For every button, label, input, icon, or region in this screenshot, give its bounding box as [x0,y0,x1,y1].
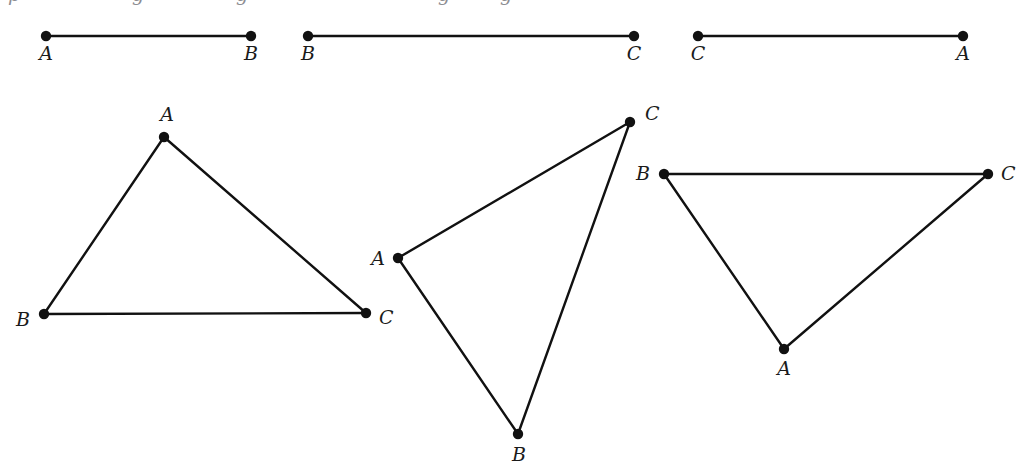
segment-ca-point-c [693,31,703,41]
triangle-right-label-b: B [635,162,650,184]
segment-bc: BC [300,31,642,64]
triangle-right: ABC [635,162,1016,379]
triangle-middle-side-ca [398,122,630,258]
triangle-middle: ABC [369,102,660,465]
segment-ab-point-b [246,31,256,41]
triangle-left-point-a [159,132,169,142]
triangle-right-point-c [983,169,993,179]
segment-bc-point-b [303,31,313,41]
segment-ca-label-a: A [954,42,970,64]
triangle-middle-side-ab [398,258,518,434]
triangle-left-point-c [361,308,371,318]
triangle-left-side-ab [44,137,164,314]
triangle-right-point-b [659,169,669,179]
triangle-right-side-ab [664,174,784,349]
triangle-right-point-a [779,344,789,354]
segment-ab-label-a: A [37,42,53,64]
triangle-left-label-a: A [158,103,174,125]
segment-ab: AB [37,31,258,64]
triangle-right-label-c: C [1001,162,1016,184]
segment-ca-point-a [958,31,968,41]
triangle-middle-point-c [625,117,635,127]
geometry-figure: pgggg ABBCCA ABCABCABC [0,0,1031,476]
triangle-left: ABC [15,103,394,330]
segment-ab-point-a [41,31,51,41]
triangle-middle-label-a: A [369,247,385,269]
triangle-right-side-ca [784,174,988,349]
triangle-left-side-bc [44,313,366,314]
triangle-left-side-ca [164,137,366,313]
triangles-layer: ABCABCABC [15,102,1016,465]
triangle-middle-side-bc [518,122,630,434]
triangle-right-label-a: A [775,357,791,379]
segment-ca-label-c: C [691,42,706,64]
triangle-left-point-b [39,309,49,319]
segment-ab-label-b: B [243,42,258,64]
triangle-left-label-c: C [379,306,394,328]
segment-ca: CA [691,31,970,64]
triangle-left-label-b: B [15,308,30,330]
segments-layer: ABBCCA [37,31,970,64]
triangle-middle-label-c: C [645,102,660,124]
figure-canvas: ABBCCA ABCABCABC [0,0,1031,476]
segment-bc-label-b: B [300,42,315,64]
triangle-middle-label-b: B [511,443,526,465]
triangle-middle-point-a [393,253,403,263]
segment-bc-label-c: C [627,42,642,64]
segment-bc-point-c [629,31,639,41]
triangle-middle-point-b [513,429,523,439]
